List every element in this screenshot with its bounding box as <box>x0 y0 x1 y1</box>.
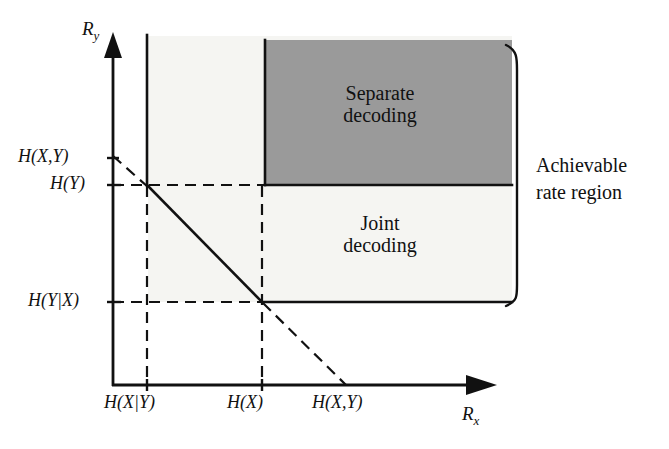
figure-container: Ry Rx H(X,Y) H(Y) H(Y|X) H(X|Y) H(X) H(X… <box>0 0 669 449</box>
achievable-rate-region-label: Achievable rate region <box>536 152 666 206</box>
x-axis-arrowhead <box>466 375 497 395</box>
x-tick-label-hxy: H(X,Y) <box>312 392 363 412</box>
x-tick-label-hx: H(X) <box>227 392 263 412</box>
joint-decoding-label-line1: Joint <box>310 212 450 234</box>
y-axis-arrowhead <box>104 32 122 58</box>
joint-decoding-label: Joint decoding <box>310 212 450 257</box>
y-axis-label: Ry <box>82 18 99 43</box>
x-tick-label-hxgy: H(X|Y) <box>104 392 155 412</box>
y-tick-label-hygx: H(Y|X) <box>28 290 79 310</box>
x-axis-label-subscript: x <box>474 413 480 428</box>
achievable-rate-region-label-line1: Achievable <box>536 152 666 179</box>
joint-decoding-label-line2: decoding <box>310 234 450 256</box>
dash-diagonal-upper-extension <box>113 156 148 187</box>
separate-decoding-label: Separate decoding <box>310 82 450 127</box>
y-axis-label-symbol: R <box>82 18 94 39</box>
y-tick-label-hxy: H(X,Y) <box>18 146 69 166</box>
y-axis-label-subscript: y <box>94 28 100 43</box>
separate-decoding-label-line1: Separate <box>310 82 450 104</box>
x-axis-label: Rx <box>462 403 479 428</box>
achievable-rate-region-label-line2: rate region <box>536 179 666 206</box>
x-axis-label-symbol: R <box>462 403 474 424</box>
dash-diagonal-lower-extension <box>263 303 346 385</box>
y-tick-label-hy: H(Y) <box>50 173 85 193</box>
separate-decoding-label-line2: decoding <box>310 104 450 126</box>
